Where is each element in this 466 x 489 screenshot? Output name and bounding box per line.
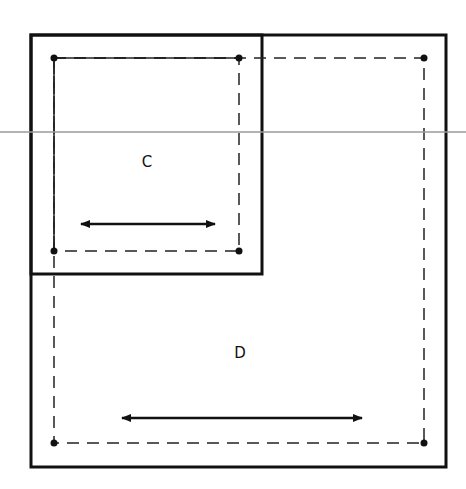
region-c-label: C bbox=[142, 153, 152, 171]
region-d-label: D bbox=[234, 344, 246, 362]
diagram-canvas: C D bbox=[0, 0, 466, 489]
